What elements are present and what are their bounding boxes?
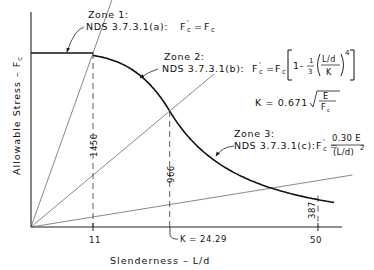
zone1-ref: NDS 3.7.3.1(a): xyxy=(86,21,168,32)
zone2-formula: F c ' = F c 1 - 1 3 L/d K 4 xyxy=(252,49,354,80)
slenderness-chart: 11 50 K = 24.29 Slenderness – L/d Allowa… xyxy=(0,0,374,270)
zone3-formula: F c ' = 0.30 E (L/d) 2 xyxy=(316,133,365,157)
svg-text:c: c xyxy=(187,26,191,34)
svg-text:L/d: L/d xyxy=(322,55,336,64)
svg-text:F: F xyxy=(252,63,258,74)
svg-text:3: 3 xyxy=(308,68,313,76)
svg-text:': ' xyxy=(187,19,190,27)
svg-text:E: E xyxy=(323,92,329,101)
x-axis-title: Slenderness – L/d xyxy=(110,255,210,266)
svg-text:': ' xyxy=(259,61,262,69)
svg-text:=: = xyxy=(266,63,275,74)
k-label: K = 24.29 xyxy=(180,234,227,244)
svg-text:c: c xyxy=(282,68,286,76)
svg-text:1: 1 xyxy=(309,57,314,65)
k-formula: K = 0.671 E F c xyxy=(255,91,340,113)
svg-text:': ' xyxy=(323,138,326,146)
zone3-ref: NDS 3.7.3.1(c): xyxy=(234,140,316,151)
svg-text:=: = xyxy=(194,21,203,32)
zone1-title: Zone 1: xyxy=(88,9,129,20)
zone2-curve xyxy=(93,55,169,110)
svg-text:F: F xyxy=(316,140,322,151)
zone3-arrow xyxy=(216,146,234,156)
k-leader xyxy=(170,227,178,239)
svg-text:F: F xyxy=(321,103,326,112)
svg-text:F: F xyxy=(204,21,210,32)
zone3-curve xyxy=(170,111,334,202)
svg-text:F: F xyxy=(180,21,186,32)
svg-text:K: K xyxy=(326,68,332,77)
svg-text:-: - xyxy=(300,60,304,71)
radial-line-3 xyxy=(31,175,352,227)
svg-text:c: c xyxy=(259,68,263,76)
svg-text:c: c xyxy=(327,107,331,113)
zone1-arrow xyxy=(67,27,84,52)
svg-text:c: c xyxy=(323,145,327,153)
svg-text:F: F xyxy=(275,63,281,74)
x-tick-label-11: 11 xyxy=(89,235,101,245)
svg-text:1: 1 xyxy=(293,60,300,71)
svg-text:K = 0.671: K = 0.671 xyxy=(255,97,308,108)
svg-text:c: c xyxy=(211,26,215,34)
svg-text:4: 4 xyxy=(345,49,350,57)
value-label-966: 966 xyxy=(166,165,176,183)
y-axis-title: Allowable Stress – Fc xyxy=(11,56,24,175)
zone3-title: Zone 3: xyxy=(234,128,275,139)
radial-line-1 xyxy=(31,0,149,227)
zone2-title: Zone 2: xyxy=(164,51,205,62)
zone1-formula: F c ' = F c xyxy=(180,19,215,34)
value-label-1450: 1450 xyxy=(89,133,99,157)
svg-text:0.30 E: 0.30 E xyxy=(332,133,361,143)
svg-text:(L/d): (L/d) xyxy=(333,147,354,157)
svg-text:2: 2 xyxy=(360,144,365,152)
x-tick-label-50: 50 xyxy=(310,235,322,245)
zone2-ref: NDS 3.7.3.1(b): xyxy=(162,63,244,74)
value-label-387: 387 xyxy=(307,201,317,219)
